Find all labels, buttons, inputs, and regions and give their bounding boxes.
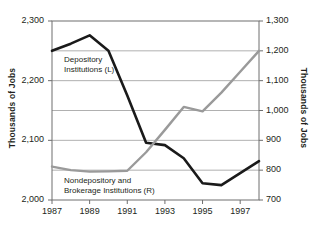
x-axis-tick-label: 1989 (70, 206, 110, 216)
x-axis-ticks (52, 200, 240, 204)
y-axis-left-ticks (48, 21, 52, 200)
y-axis-right-tick-label: 700 (266, 194, 302, 204)
chart-container: Thousands of Jobs Thousands of Jobs 2,00… (0, 0, 315, 230)
series-label-nondepository: Nondepository and Brokerage Institutions… (64, 176, 155, 196)
y-axis-left-tick-label: 2,100 (10, 134, 44, 144)
y-axis-right-tick-label: 1,000 (266, 105, 302, 115)
y-axis-right-ticks (259, 21, 263, 200)
y-axis-left-tick-label: 2,000 (10, 194, 44, 204)
y-axis-right-tick-label: 1,100 (266, 75, 302, 85)
series-label-depository-line1: Depository (64, 55, 114, 65)
x-axis-tick-label: 1987 (32, 206, 72, 216)
y-axis-left-tick-label: 2,300 (10, 15, 44, 25)
series-label-depository-line2: Institutions (L) (64, 65, 114, 75)
y-axis-right-tick-label: 900 (266, 134, 302, 144)
series-label-nondepository-line2: Brokerage Institutions (R) (64, 186, 155, 196)
series-label-nondepository-line1: Nondepository and (64, 176, 155, 186)
x-axis-tick-label: 1995 (183, 206, 223, 216)
x-axis-tick-label: 1991 (107, 206, 147, 216)
y-axis-right-tick-label: 1,300 (266, 15, 302, 25)
y-axis-left-tick-label: 2,200 (10, 75, 44, 85)
series-label-depository: Depository Institutions (L) (64, 55, 114, 75)
y-axis-right-tick-label: 800 (266, 164, 302, 174)
x-axis-tick-label: 1993 (145, 206, 185, 216)
y-axis-right-tick-label: 1,200 (266, 45, 302, 55)
x-axis-tick-label: 1997 (220, 206, 260, 216)
